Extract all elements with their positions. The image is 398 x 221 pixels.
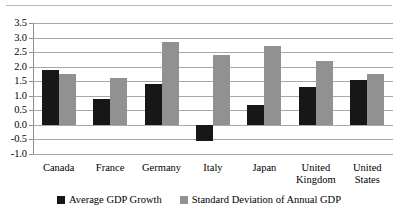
- bar: [145, 84, 162, 125]
- category-label: Italy: [187, 162, 238, 174]
- bar: [162, 42, 179, 125]
- bar: [299, 87, 316, 125]
- category-label: Germany: [136, 162, 187, 174]
- category-label: Japan: [239, 162, 290, 174]
- y-axis-tick-label: 2.0: [14, 61, 27, 72]
- y-axis-tick-label: -1.0: [11, 149, 27, 160]
- y-axis-tick-label: 3.5: [14, 18, 27, 29]
- plot-area: 3.53.02.52.01.51.00.50.0-0.5-1.0: [33, 23, 393, 154]
- legend-entry: Average GDP Growth: [57, 194, 162, 206]
- bar-group: [239, 23, 290, 154]
- gridline: [33, 154, 393, 155]
- chart-legend: Average GDP GrowthStandard Deviation of …: [0, 194, 398, 206]
- bar: [196, 125, 213, 141]
- bar: [59, 74, 76, 125]
- bar: [110, 78, 127, 125]
- bar-group: [136, 23, 187, 154]
- bar-group: [33, 23, 84, 154]
- top-divider-rule: [6, 5, 392, 6]
- legend-swatch-icon: [180, 196, 188, 204]
- y-axis-tick-label: 0.5: [14, 105, 27, 116]
- y-axis-tick-label: 1.5: [14, 76, 27, 87]
- category-label: Canada: [33, 162, 84, 174]
- bar-group: [187, 23, 238, 154]
- bar: [264, 46, 281, 125]
- bar: [42, 70, 59, 125]
- bar: [93, 99, 110, 125]
- y-axis-tick-label: 1.0: [14, 91, 27, 102]
- legend-label: Average GDP Growth: [69, 194, 162, 206]
- y-axis-tick-label: 2.5: [14, 47, 27, 58]
- legend-label: Standard Deviation of Annual GDP: [192, 194, 341, 206]
- gdp-bar-chart-figure: 3.53.02.52.01.51.00.50.0-0.5-1.0 CanadaF…: [0, 0, 398, 221]
- y-axis-tick-label: -0.5: [11, 134, 27, 145]
- bar: [213, 55, 230, 125]
- category-label: United Kingdom: [290, 162, 341, 185]
- category-label: France: [84, 162, 135, 174]
- bar: [367, 74, 384, 125]
- legend-swatch-icon: [57, 196, 65, 204]
- bar: [350, 80, 367, 125]
- y-axis-tick: [29, 154, 33, 155]
- bar: [316, 61, 333, 125]
- legend-entry: Standard Deviation of Annual GDP: [180, 194, 341, 206]
- bar-group: [290, 23, 341, 154]
- y-axis-tick-label: 0.0: [14, 120, 27, 131]
- bar-group: [342, 23, 393, 154]
- category-label: United States: [342, 162, 393, 185]
- bar-group: [84, 23, 135, 154]
- y-axis-tick-label: 3.0: [14, 32, 27, 43]
- bar: [247, 105, 264, 125]
